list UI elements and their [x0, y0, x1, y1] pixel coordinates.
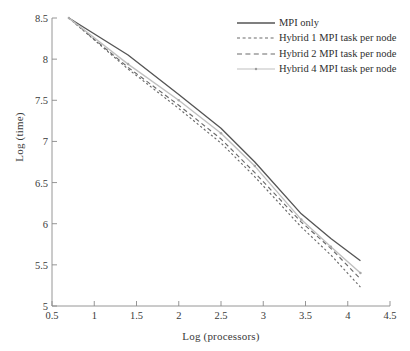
series-marker: [178, 99, 181, 102]
series-marker: [127, 63, 130, 66]
series-marker: [330, 246, 333, 249]
legend-label-hybrid-1: Hybrid 1 MPI task per node: [279, 32, 397, 44]
chart-legend: MPI only Hybrid 1 MPI task per node Hybr…: [236, 15, 408, 77]
y-tick-label: 6: [14, 218, 48, 229]
legend-label-hybrid-4: Hybrid 4 MPI task per node: [279, 63, 397, 75]
series-marker: [300, 218, 303, 221]
chart-figure: 55.566.577.588.5 0.511.522.533.544.5 Log…: [0, 0, 410, 351]
series-marker: [220, 132, 223, 135]
y-tick-label: 8.5: [14, 13, 48, 24]
legend-key-hybrid-1-icon: [236, 32, 276, 44]
x-tick-label: 2.5: [201, 310, 241, 321]
x-tick-label: 3.5: [286, 310, 326, 321]
x-axis-title: Log (processors): [52, 330, 390, 342]
y-tick-label: 5.5: [14, 259, 48, 270]
x-tick-label: 4: [328, 310, 368, 321]
legend-label-hybrid-2: Hybrid 2 MPI task per node: [279, 48, 397, 60]
legend-item: Hybrid 4 MPI task per node: [236, 62, 408, 78]
legend-item: Hybrid 1 MPI task per node: [236, 31, 408, 47]
legend-key-hybrid-4-icon: [236, 63, 276, 75]
series-marker: [359, 272, 362, 275]
x-tick-label: 1: [74, 310, 114, 321]
x-tick-label: 4.5: [370, 310, 410, 321]
x-tick-label: 3: [243, 310, 283, 321]
x-tick-label: 1.5: [117, 310, 157, 321]
legend-key-hybrid-2-icon: [236, 48, 276, 60]
y-tick-label: 8: [14, 54, 48, 65]
legend-key-mpi-only-icon: [236, 17, 276, 29]
legend-item: MPI only: [236, 15, 408, 31]
series-marker: [254, 165, 256, 168]
x-tick-label: 2: [159, 310, 199, 321]
legend-label-mpi-only: MPI only: [279, 17, 319, 29]
y-axis-title: Log (time): [13, 92, 25, 182]
series-marker: [68, 17, 71, 20]
legend-item: Hybrid 2 MPI task per node: [236, 46, 408, 62]
x-tick-label: 0.5: [32, 310, 72, 321]
